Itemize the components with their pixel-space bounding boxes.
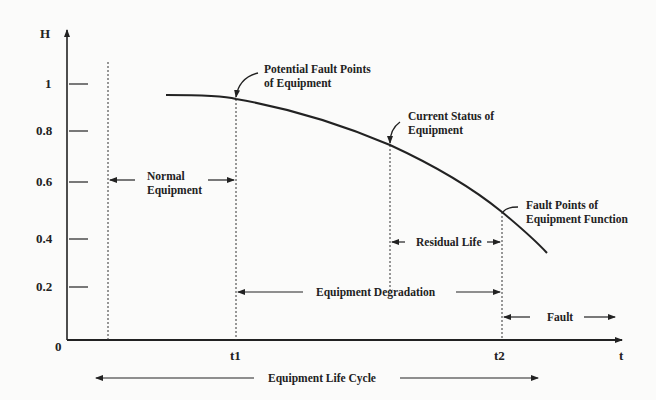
origin-label: 0 bbox=[55, 340, 62, 354]
y-tick-0-2: 0.2 bbox=[36, 280, 52, 294]
y-tick-0-8: 0.8 bbox=[36, 124, 52, 138]
y-axis-label: H bbox=[40, 27, 50, 41]
normal-equipment-label: Normal Equipment bbox=[147, 169, 202, 197]
dashed-guides bbox=[108, 62, 502, 340]
fault-points-annotation: Fault Points of Equipment Function bbox=[526, 198, 628, 226]
potential-fault-annotation: Potential Fault Points of Equipment bbox=[264, 62, 371, 90]
fault-point-pointer bbox=[503, 207, 518, 212]
y-ticks bbox=[69, 84, 88, 287]
x-axis-label: t bbox=[619, 349, 623, 363]
fault-label: Fault bbox=[547, 310, 573, 324]
x-tick-t2: t2 bbox=[494, 349, 505, 363]
x-tick-t1: t1 bbox=[230, 349, 241, 363]
residual-life-label: Residual Life bbox=[416, 235, 482, 249]
current-status-pointer bbox=[390, 122, 400, 143]
potential-fault-pointer bbox=[236, 73, 258, 97]
y-tick-0-4: 0.4 bbox=[36, 232, 52, 246]
degradation-label: Equipment Degradation bbox=[316, 285, 435, 299]
y-tick-0-6: 0.6 bbox=[36, 175, 52, 189]
life-cycle-label: Equipment Life Cycle bbox=[268, 371, 376, 385]
y-tick-1: 1 bbox=[45, 77, 52, 91]
current-status-annotation: Current Status of Equipment bbox=[408, 109, 494, 137]
